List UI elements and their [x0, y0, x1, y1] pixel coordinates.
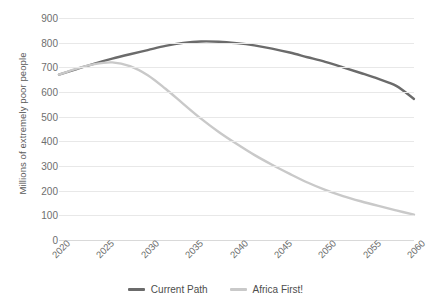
- y-axis-tick-200: 200: [14, 185, 58, 196]
- legend-label: Africa First!: [253, 284, 304, 295]
- plot-area: [59, 18, 414, 240]
- gridline-800: [59, 43, 414, 44]
- y-axis-tick-700: 700: [14, 62, 58, 73]
- gridline-600: [59, 92, 414, 93]
- legend-swatch-icon: [230, 288, 247, 291]
- legend-label: Current Path: [151, 284, 208, 295]
- series-line-current-path: [59, 41, 414, 99]
- y-axis-tick-0: 0: [14, 235, 58, 246]
- gridline-700: [59, 67, 414, 68]
- y-axis-tick-300: 300: [14, 161, 58, 172]
- gridline-200: [59, 191, 414, 192]
- y-axis-tick-500: 500: [14, 111, 58, 122]
- y-axis-tick-600: 600: [14, 87, 58, 98]
- x-axis-tick-labels: 202020252030203520402045205020552060: [59, 243, 414, 283]
- legend-item-africa-first[interactable]: Africa First!: [230, 284, 304, 295]
- y-axis-tick-400: 400: [14, 136, 58, 147]
- legend-item-current-path[interactable]: Current Path: [128, 284, 208, 295]
- series-svg: [59, 18, 414, 240]
- y-axis-tick-labels: 0100200300400500600700800900: [12, 0, 58, 246]
- series-line-africa-first: [59, 62, 414, 214]
- y-axis-tick-800: 800: [14, 37, 58, 48]
- gridline-500: [59, 117, 414, 118]
- legend: Current PathAfrica First!: [0, 279, 431, 299]
- gridline-300: [59, 166, 414, 167]
- legend-swatch-icon: [128, 288, 145, 291]
- line-chart: Millions of extremely poor people 010020…: [0, 0, 431, 303]
- gridline-900: [59, 18, 414, 19]
- y-axis-tick-100: 100: [14, 210, 58, 221]
- gridline-100: [59, 215, 414, 216]
- y-axis-tick-900: 900: [14, 13, 58, 24]
- gridline-400: [59, 141, 414, 142]
